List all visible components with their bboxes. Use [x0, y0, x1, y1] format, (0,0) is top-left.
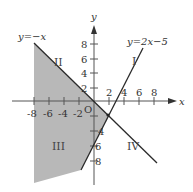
y-axis-label: y [90, 11, 97, 22]
region-label-I: I [132, 55, 136, 68]
x-tick-label: -8 [27, 108, 37, 119]
y-tick-label: 6 [81, 54, 87, 65]
intersection-point [106, 113, 109, 116]
x-tick-label: 6 [136, 87, 142, 98]
y-tick-label: 6 [95, 141, 101, 152]
region-label-II: II [54, 56, 63, 69]
y-tick-label: 4 [81, 68, 87, 79]
line-label-y-neg-x: y=−x [17, 31, 46, 42]
y-axis-arrow-icon [91, 25, 97, 34]
region-label-III: III [52, 140, 65, 153]
coordinate-plane: x y O -8 -6 -4 -2 2 4 6 8 8 6 4 2 4 6 8 … [0, 0, 193, 192]
x-axis-label: x [179, 96, 185, 107]
region-label-IV: IV [127, 140, 140, 153]
x-tick-label: 2 [106, 87, 112, 98]
x-tick-label: 8 [151, 87, 157, 98]
x-tick-label: -4 [58, 108, 68, 119]
y-tick-label: 8 [81, 39, 87, 50]
origin-label: O [84, 104, 92, 115]
line-label-y-2x-minus-5: y=2x−5 [126, 36, 168, 47]
x-tick-label: -2 [73, 108, 83, 119]
y-tick-label: 2 [81, 83, 87, 94]
x-tick-label: 4 [121, 87, 127, 98]
y-tick-label: 8 [95, 156, 101, 167]
x-tick-label: -6 [43, 108, 53, 119]
y-tick-label: 4 [98, 126, 104, 137]
x-axis-arrow-icon [168, 98, 177, 104]
